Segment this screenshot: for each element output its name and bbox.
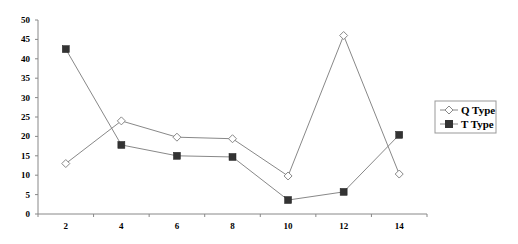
- data-point-t-type: [229, 153, 236, 160]
- series-layer: [62, 32, 403, 204]
- y-tick-label: 10: [21, 170, 31, 180]
- line-chart: 05101520253035404550 2468101214 Q Type T…: [0, 0, 518, 244]
- data-point-q-type: [62, 160, 70, 168]
- data-point-q-type: [229, 135, 237, 143]
- data-point-t-type: [396, 131, 403, 138]
- y-tick-label: 0: [26, 209, 31, 219]
- y-tick-label: 35: [21, 73, 31, 83]
- data-point-t-type: [62, 46, 69, 53]
- data-point-q-type: [340, 32, 348, 40]
- x-tick-label: 10: [284, 221, 294, 231]
- data-point-t-type: [340, 188, 347, 195]
- x-tick-label: 14: [395, 221, 405, 231]
- y-tick-label: 25: [21, 112, 31, 122]
- x-tick-label: 4: [119, 221, 124, 231]
- data-point-q-type: [117, 117, 125, 125]
- x-tick-label: 6: [175, 221, 180, 231]
- data-point-t-type: [285, 197, 292, 204]
- y-tick-label: 20: [21, 131, 31, 141]
- legend: Q Type T Type: [435, 101, 496, 133]
- x-tick-label: 12: [339, 221, 349, 231]
- y-tick-label: 30: [21, 93, 31, 103]
- x-tick-label: 8: [230, 221, 235, 231]
- y-tick-label: 45: [21, 34, 31, 44]
- legend-label-q-type: Q Type: [461, 104, 495, 116]
- data-point-q-type: [284, 172, 292, 180]
- data-point-t-type: [173, 152, 180, 159]
- data-point-t-type: [118, 141, 125, 148]
- x-axis: 2468101214: [38, 214, 427, 231]
- legend-label-t-type: T Type: [461, 118, 494, 130]
- data-point-q-type: [395, 170, 403, 178]
- x-tick-label: 2: [64, 221, 69, 231]
- y-tick-label: 40: [21, 54, 31, 64]
- data-point-q-type: [173, 133, 181, 141]
- y-axis: 05101520253035404550: [21, 15, 38, 219]
- square-marker-icon: [446, 121, 453, 128]
- y-tick-label: 5: [26, 190, 31, 200]
- y-tick-label: 50: [21, 15, 31, 25]
- y-tick-label: 15: [21, 151, 31, 161]
